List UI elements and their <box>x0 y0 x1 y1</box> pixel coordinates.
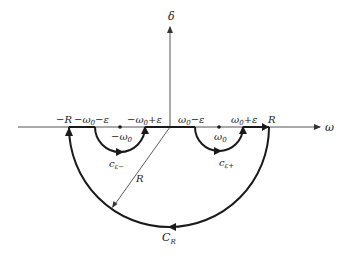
large-arrow-bottom <box>168 223 176 231</box>
label-w0-plus-eps: ω0+ε <box>231 114 257 127</box>
neg-pole-label: −ω0 <box>111 131 133 144</box>
svg-text:−ω0−ε: −ω0−ε <box>74 114 109 127</box>
radius-label: R <box>135 173 144 184</box>
delta-axis-label: δ <box>168 10 175 23</box>
small-right-contour-label: cε+ <box>219 157 234 170</box>
label-w0-minus-eps: ω0−ε <box>178 114 204 127</box>
neg-pole-dot <box>118 125 122 129</box>
label-neg-w0-plus-eps: −ω0+ε <box>127 114 162 127</box>
small-left-arrow-bottom <box>116 148 124 156</box>
svg-text:ω0+ε: ω0+ε <box>231 114 257 127</box>
large-arrow-up <box>65 127 73 136</box>
small-right-arrow-bottom <box>214 147 222 155</box>
svg-text:cε+: cε+ <box>219 157 234 170</box>
contour-diagram: ω δ R −R −ω0−ε −ω0+ε ω0−ε ω0+ε R −ω0 ω0 <box>0 0 346 257</box>
pos-pole-label: ω0 <box>214 131 227 144</box>
label-neg-w0-minus-eps: −ω0−ε <box>74 114 109 127</box>
svg-text:ω0: ω0 <box>214 131 227 144</box>
label-neg-R: −R <box>56 114 72 125</box>
svg-text:−ω0: −ω0 <box>111 131 133 144</box>
pos-pole-dot <box>217 125 221 129</box>
svg-text:−ω0+ε: −ω0+ε <box>127 114 162 127</box>
svg-text:CR: CR <box>162 231 176 246</box>
omega-axis-label: ω <box>325 121 334 134</box>
label-pos-R: R <box>267 114 276 125</box>
svg-text:cε−: cε− <box>109 158 124 171</box>
svg-text:ω0−ε: ω0−ε <box>178 114 204 127</box>
large-contour-label: CR <box>162 231 176 246</box>
small-left-contour-label: cε− <box>109 158 124 171</box>
